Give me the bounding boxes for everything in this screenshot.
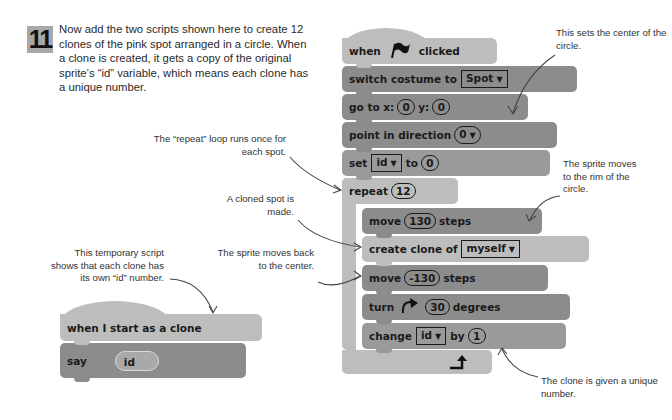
- block-label: set: [349, 157, 367, 169]
- degrees-input[interactable]: 30: [425, 299, 450, 315]
- repeat-count-input[interactable]: 12: [391, 183, 416, 199]
- change-variable-block[interactable]: change id▼ by 1: [362, 323, 566, 349]
- step-instructions: Now add the two scripts shown here to cr…: [59, 22, 309, 95]
- dropdown-value: Spot: [466, 72, 493, 84]
- block-label: change: [369, 330, 412, 342]
- say-value-reporter[interactable]: id: [115, 351, 159, 371]
- when-i-start-as-clone-block[interactable]: when I start as a clone: [60, 314, 262, 341]
- dropdown-value: 0: [459, 128, 466, 140]
- hat-clicked-label: clicked: [419, 45, 460, 57]
- annotation-center: This sets the center of the circle.: [556, 27, 671, 52]
- block-label: move: [369, 215, 401, 227]
- block-label-suffix: steps: [443, 272, 475, 284]
- variable-dropdown[interactable]: id▼: [416, 327, 446, 345]
- block-label-to: to: [406, 157, 418, 169]
- step-number: 11: [27, 26, 53, 53]
- arrow-temp: [170, 279, 213, 312]
- switch-costume-block[interactable]: switch costume to Spot▼: [342, 66, 577, 92]
- block-label-suffix: steps: [439, 215, 471, 227]
- block-label: switch costume to: [349, 73, 457, 85]
- dropdown-arrow-icon: ▼: [435, 332, 441, 341]
- costume-dropdown[interactable]: Spot▼: [461, 70, 507, 88]
- annotation-rim: The sprite moves to the rim of the circl…: [563, 158, 643, 196]
- annotation-back: The sprite moves back to the center.: [212, 247, 314, 272]
- dropdown-arrow-icon: ▼: [509, 245, 515, 254]
- annotation-unique: The clone is given a unique number.: [541, 375, 661, 400]
- set-value-input[interactable]: 0: [421, 155, 439, 171]
- set-variable-block[interactable]: set id▼ to 0: [342, 150, 550, 176]
- steps-input[interactable]: 130: [404, 213, 436, 229]
- move-back-block[interactable]: move -130 steps: [362, 265, 548, 291]
- annotation-temp-script: This temporary script shows that each cl…: [48, 247, 164, 285]
- loop-arrow-icon: [448, 353, 470, 373]
- direction-dropdown[interactable]: 0▼: [454, 126, 480, 144]
- block-label: point in direction: [349, 129, 451, 141]
- say-block[interactable]: say id: [60, 343, 246, 378]
- dropdown-value: myself: [466, 242, 505, 254]
- steps-input[interactable]: -130: [404, 270, 440, 286]
- block-label: go to x:: [349, 101, 394, 113]
- block-label-by: by: [450, 330, 464, 342]
- dropdown-value: id: [376, 156, 387, 168]
- block-label: create clone of: [369, 243, 457, 255]
- x-input[interactable]: 0: [397, 99, 415, 115]
- repeat-block-end: [342, 350, 492, 374]
- variable-dropdown[interactable]: id▼: [371, 154, 401, 172]
- dropdown-arrow-icon: ▼: [496, 75, 502, 84]
- repeat-block[interactable]: repeat 12: [342, 178, 458, 204]
- create-clone-block[interactable]: create clone of myself▼: [362, 236, 589, 262]
- block-label: repeat: [349, 185, 388, 197]
- go-to-xy-block[interactable]: go to x: 0 y: 0: [342, 94, 528, 120]
- annotation-clone: A cloned spot is made.: [200, 193, 294, 218]
- turn-block[interactable]: turn 30 degrees: [362, 294, 570, 320]
- hat-when-label: when: [349, 45, 381, 57]
- when-flag-clicked-block[interactable]: when clicked: [342, 38, 497, 64]
- annotation-repeat: The “repeat” loop runs once for each spo…: [150, 133, 286, 158]
- dropdown-value: id: [421, 329, 432, 341]
- block-label: when I start as a clone: [67, 322, 202, 334]
- block-label-y: y:: [418, 101, 429, 113]
- dropdown-arrow-icon: ▼: [391, 159, 397, 168]
- clone-target-dropdown[interactable]: myself▼: [461, 240, 519, 258]
- point-in-direction-block[interactable]: point in direction 0▼: [342, 122, 557, 148]
- arrow-unique: [502, 349, 538, 377]
- block-label: move: [369, 272, 401, 284]
- y-input[interactable]: 0: [432, 99, 450, 115]
- block-label: say: [67, 355, 87, 367]
- dropdown-arrow-icon: ▼: [469, 131, 475, 140]
- change-value-input[interactable]: 1: [468, 328, 486, 344]
- block-label: turn: [369, 301, 394, 313]
- arrow-repeat: [290, 157, 340, 190]
- move-out-block[interactable]: move 130 steps: [362, 208, 542, 234]
- green-flag-icon: [389, 42, 411, 60]
- rotate-clockwise-icon: [400, 298, 420, 316]
- block-label-suffix: degrees: [453, 301, 501, 313]
